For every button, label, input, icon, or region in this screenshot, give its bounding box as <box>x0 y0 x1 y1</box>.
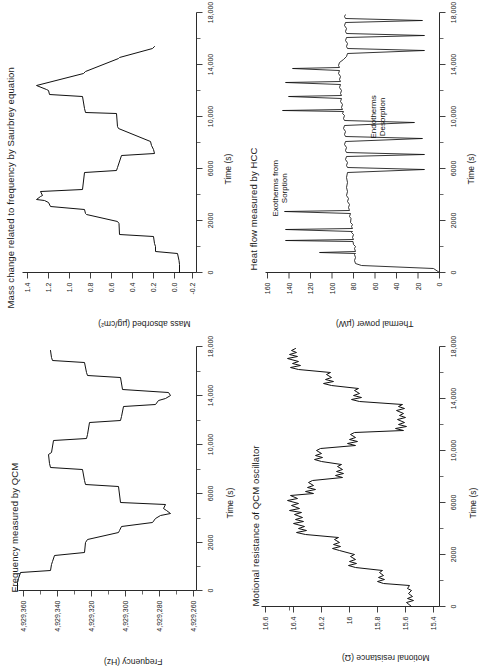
svg-text:0: 0 <box>449 270 456 274</box>
svg-text:16: 16 <box>346 616 353 624</box>
panel-motional-resistance-plot: 16.6 16.4 16.2 16 15.8 15.6 15.4 0 2000 <box>243 334 486 668</box>
panel-motional-resistance-yticks: 16.6 16.4 16.2 16 15.8 15.6 15.4 <box>262 606 437 630</box>
panel-frequency: Frequency measured by QCM Time (s) Frequ… <box>0 334 243 668</box>
svg-text:18,000: 18,000 <box>206 335 213 357</box>
panel-motional-resistance: Motional resistance of QCM oscillator Ti… <box>243 334 486 668</box>
svg-text:40: 40 <box>393 282 400 290</box>
annotation-exotherms: Exotherms from Sorption <box>271 160 289 216</box>
panel-motional-resistance-xticks: 0 2000 6000 10,000 14,000 18,000 <box>439 335 456 608</box>
svg-text:18,000: 18,000 <box>206 1 213 23</box>
svg-text:0.8: 0.8 <box>87 282 94 292</box>
panel-heat-flow: Heat flow measured by HCC Time (s) Therm… <box>243 0 486 334</box>
svg-text:4,929,340: 4,929,340 <box>54 600 61 631</box>
panel-heat-flow-rotation: Heat flow measured by HCC Time (s) Therm… <box>243 0 486 334</box>
panel-mass-change: Mass change related to frequency by Saur… <box>0 0 243 334</box>
panel-heat-flow-ylabel: Thermal power (µW) <box>335 318 413 328</box>
svg-text:-0.2: -0.2 <box>189 282 196 294</box>
panel-motional-resistance-ylabel: Motional resistance (Ω) <box>341 652 429 662</box>
panel-mass-change-title: Mass change related to frequency by Saur… <box>4 67 15 308</box>
annotation-endotherms: Endotherms Desorption <box>369 95 387 138</box>
svg-text:15.6: 15.6 <box>402 616 409 630</box>
svg-text:2000: 2000 <box>449 546 456 562</box>
svg-text:80: 80 <box>350 282 357 290</box>
panel-heat-flow-title: Heat flow measured by HCC <box>247 147 258 270</box>
svg-text:14,000: 14,000 <box>206 384 213 406</box>
svg-text:6000: 6000 <box>206 160 213 176</box>
svg-text:15.4: 15.4 <box>430 616 437 630</box>
svg-text:4,929,300: 4,929,300 <box>122 600 129 631</box>
panel-mass-change-ylabel: Mass absorbed (µg/cm²) <box>98 318 190 328</box>
panel-frequency-rotation: Frequency measured by QCM Time (s) Frequ… <box>0 334 243 668</box>
svg-text:0: 0 <box>436 282 443 286</box>
panel-mass-change-plot: 1.4 1.2 1.0 0.8 0.6 0.4 0.2 0.0 -0.2 0 <box>0 0 243 334</box>
svg-text:16.6: 16.6 <box>262 616 269 630</box>
panel-mass-change-xlabel: Time (s) <box>222 153 232 184</box>
svg-text:15.8: 15.8 <box>374 616 381 630</box>
panel-motional-resistance-title: Motional resistance of QCM oscillator <box>249 445 260 606</box>
svg-text:1.4: 1.4 <box>24 282 31 292</box>
svg-text:10,000: 10,000 <box>206 433 213 455</box>
svg-text:16.4: 16.4 <box>290 616 297 630</box>
svg-text:4,929,320: 4,929,320 <box>88 600 95 631</box>
svg-text:14,000: 14,000 <box>449 387 456 409</box>
panel-mass-change-rotation: Mass change related to frequency by Saur… <box>0 0 243 334</box>
panel-frequency-plot: 4,929,360 4,929,340 4,929,320 4,929,300 … <box>0 334 243 668</box>
panel-motional-resistance-xlabel: Time (s) <box>467 487 477 518</box>
panel-frequency-ylabel: Frequency (Hz) <box>103 656 162 666</box>
svg-text:2000: 2000 <box>449 212 456 228</box>
svg-text:4,929,280: 4,929,280 <box>156 600 163 631</box>
svg-text:0.4: 0.4 <box>129 282 136 292</box>
panel-motional-resistance-trace <box>287 348 413 606</box>
svg-text:14,000: 14,000 <box>206 53 213 75</box>
svg-text:18,000: 18,000 <box>449 335 456 357</box>
svg-text:1.2: 1.2 <box>45 282 52 292</box>
panel-frequency-xlabel: Time (s) <box>224 487 234 518</box>
svg-text:4,929,360: 4,929,360 <box>20 600 27 631</box>
svg-text:10,000: 10,000 <box>449 105 456 127</box>
svg-text:120: 120 <box>307 282 314 294</box>
svg-text:0: 0 <box>449 604 456 608</box>
svg-text:20: 20 <box>414 282 421 290</box>
svg-text:10,000: 10,000 <box>449 439 456 461</box>
panel-heat-flow-yticks: 160 140 120 100 80 60 40 20 0 <box>264 272 443 294</box>
svg-text:2000: 2000 <box>206 534 213 550</box>
svg-text:1.0: 1.0 <box>66 282 73 292</box>
svg-text:6000: 6000 <box>206 485 213 501</box>
svg-text:14,000: 14,000 <box>449 53 456 75</box>
svg-text:4,929,260: 4,929,260 <box>190 600 197 631</box>
panel-heat-flow-xlabel: Time (s) <box>465 153 475 184</box>
svg-text:100: 100 <box>328 282 335 294</box>
svg-text:0.0: 0.0 <box>171 282 178 292</box>
svg-text:60: 60 <box>371 282 378 290</box>
panel-mass-change-xticks: 0 2000 6000 10,000 14,000 18,000 <box>196 1 213 274</box>
panel-frequency-trace <box>17 350 170 590</box>
panel-mass-change-trace <box>36 46 179 272</box>
svg-text:16.2: 16.2 <box>318 616 325 630</box>
panel-motional-resistance-rotation: Motional resistance of QCM oscillator Ti… <box>243 334 486 668</box>
panel-frequency-xticks: 0 2000 6000 10,000 14,000 18,000 <box>196 335 213 592</box>
svg-text:140: 140 <box>285 282 292 294</box>
panel-heat-flow-trace <box>282 14 439 272</box>
svg-text:18,000: 18,000 <box>449 1 456 23</box>
panel-frequency-title: Frequency measured by QCM <box>8 462 19 592</box>
svg-text:6000: 6000 <box>449 494 456 510</box>
panel-frequency-yticks: 4,929,360 4,929,340 4,929,320 4,929,300 … <box>20 590 197 631</box>
svg-text:0: 0 <box>206 588 213 592</box>
svg-text:0.2: 0.2 <box>150 282 157 292</box>
svg-text:0.6: 0.6 <box>108 282 115 292</box>
panel-heat-flow-xticks: 0 2000 6000 10,000 14,000 18,000 <box>439 1 456 274</box>
svg-text:160: 160 <box>264 282 271 294</box>
svg-text:2000: 2000 <box>206 212 213 228</box>
svg-text:0: 0 <box>206 270 213 274</box>
figure-root: Mass change related to frequency by Saur… <box>0 0 486 668</box>
svg-text:10,000: 10,000 <box>206 105 213 127</box>
svg-text:6000: 6000 <box>449 160 456 176</box>
panel-mass-change-yticks: 1.4 1.2 1.0 0.8 0.6 0.4 0.2 0.0 -0.2 <box>24 272 196 294</box>
